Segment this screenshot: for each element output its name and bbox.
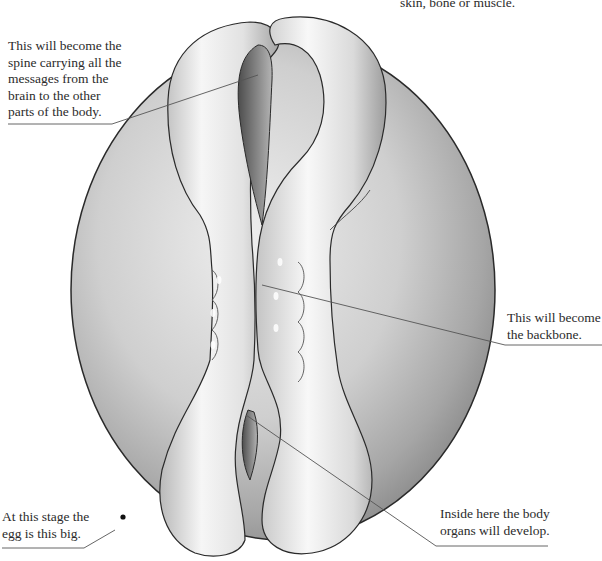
callout-egg-size: At this stage the egg is this big. — [2, 509, 89, 542]
egg-size-dot — [120, 514, 125, 519]
callout-backbone: This will become the backbone. — [507, 310, 601, 343]
callout-spine: This will become the spine carrying all … — [8, 38, 122, 121]
callout-organs: Inside here the body organs will develop… — [440, 506, 550, 539]
callout-top-partial: skin, bone or muscle. — [400, 0, 515, 12]
